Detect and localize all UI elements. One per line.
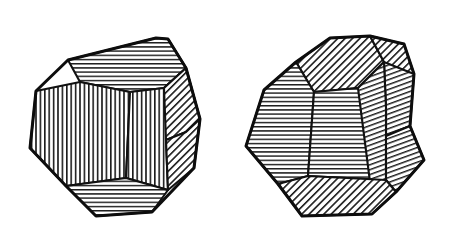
left-face-center-right: [126, 88, 168, 190]
figure-canvas: [0, 0, 476, 249]
polyhedra-illustration: [0, 0, 476, 249]
